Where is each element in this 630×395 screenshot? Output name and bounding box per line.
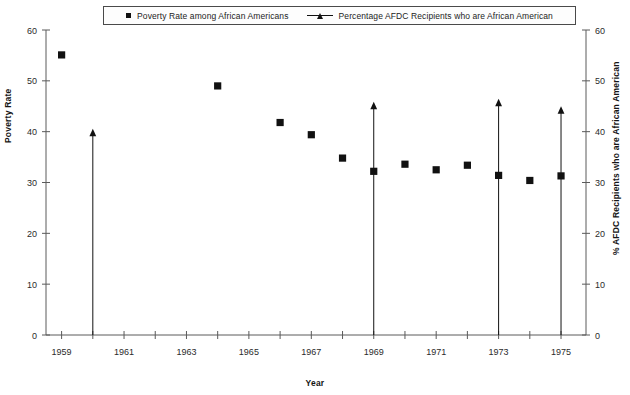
- svg-text:60: 60: [27, 26, 37, 36]
- y-axis-right-ticks: 0102030405060: [582, 26, 605, 341]
- svg-text:1971: 1971: [426, 347, 446, 357]
- svg-text:1963: 1963: [176, 347, 196, 357]
- chart-container: Poverty Rate among African Americans Per…: [0, 0, 630, 395]
- svg-text:1967: 1967: [301, 347, 321, 357]
- svg-text:1959: 1959: [52, 347, 72, 357]
- poverty-square-marker: [58, 51, 65, 58]
- svg-text:50: 50: [27, 76, 37, 86]
- afdc-triangle-marker: [370, 102, 377, 110]
- svg-text:1975: 1975: [551, 347, 571, 357]
- y-axis-left-ticks: 0102030405060: [27, 26, 50, 341]
- afdc-triangle-marker: [495, 99, 502, 107]
- svg-text:0: 0: [595, 331, 600, 341]
- svg-text:1961: 1961: [114, 347, 134, 357]
- plot-area: 0102030405060 0102030405060 195919611963…: [0, 0, 630, 395]
- svg-text:20: 20: [595, 229, 605, 239]
- svg-text:60: 60: [595, 26, 605, 36]
- poverty-square-marker: [401, 161, 408, 168]
- svg-text:1973: 1973: [489, 347, 509, 357]
- svg-text:10: 10: [27, 280, 37, 290]
- poverty-square-marker: [339, 155, 346, 162]
- poverty-square-marker: [526, 177, 533, 184]
- poverty-square-marker: [464, 162, 471, 169]
- series-afdc-recipients: [89, 99, 564, 335]
- svg-text:10: 10: [595, 280, 605, 290]
- svg-text:40: 40: [595, 127, 605, 137]
- svg-text:0: 0: [32, 331, 37, 341]
- svg-text:40: 40: [27, 127, 37, 137]
- svg-text:30: 30: [27, 178, 37, 188]
- svg-text:1969: 1969: [364, 347, 384, 357]
- poverty-square-marker: [370, 168, 377, 175]
- poverty-square-marker: [277, 119, 284, 126]
- poverty-square-marker: [214, 82, 221, 89]
- svg-text:20: 20: [27, 229, 37, 239]
- svg-text:30: 30: [595, 178, 605, 188]
- poverty-square-marker: [433, 166, 440, 173]
- svg-text:50: 50: [595, 76, 605, 86]
- series-poverty-rate: [58, 51, 565, 184]
- poverty-square-marker: [308, 131, 315, 138]
- svg-text:1965: 1965: [239, 347, 259, 357]
- poverty-square-marker: [495, 172, 502, 179]
- poverty-square-marker: [557, 172, 564, 179]
- afdc-triangle-marker: [89, 129, 96, 137]
- afdc-triangle-marker: [558, 106, 565, 114]
- axis-lines: [46, 30, 586, 335]
